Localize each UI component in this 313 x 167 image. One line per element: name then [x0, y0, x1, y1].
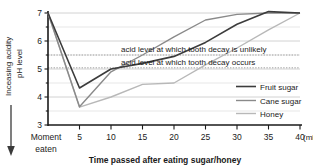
x-tick-label: 25: [201, 132, 211, 142]
y-axis-title-ph: pH level: [15, 49, 24, 78]
x-tick-label: 35: [264, 132, 274, 142]
origin-label-line2: eaten: [35, 144, 57, 154]
legend-label-honey: Honey: [260, 110, 283, 119]
origin-label-line1: Moment: [31, 132, 62, 142]
legend-label-cane-sugar: Cane sugar: [260, 97, 302, 106]
y-tick-label: 3: [37, 120, 42, 130]
x-axis-title: Time passed after eating sugar/honey: [89, 155, 242, 165]
y-tick-label: 5: [37, 64, 42, 74]
annotation-decay-unlikely: acid level at which tooth decay is unlik…: [121, 45, 266, 54]
chart-figure: 7 6 5 4 3 5 10 15 20 25 30 35 40 (minute…: [0, 0, 313, 167]
x-tick-label: 30: [232, 132, 242, 142]
x-tick-label: 20: [169, 132, 179, 142]
x-axis-unit-label: (minutes): [303, 133, 313, 142]
x-tick-label: 10: [106, 132, 116, 142]
legend-label-fruit-sugar: Fruit sugar: [260, 83, 299, 92]
y-tick-label: 7: [37, 8, 42, 18]
x-tick-label: 15: [138, 132, 148, 142]
x-tick-label: 5: [77, 132, 82, 142]
y-tick-label: 4: [37, 92, 42, 102]
y-axis-title-acidity: Inceasing acidity: [4, 37, 13, 96]
ph-line-chart: 7 6 5 4 3 5 10 15 20 25 30 35 40 (minute…: [0, 0, 313, 167]
annotation-decay-occurs: acid level at which tooth decay occurs: [121, 58, 255, 67]
y-tick-label: 6: [37, 36, 42, 46]
